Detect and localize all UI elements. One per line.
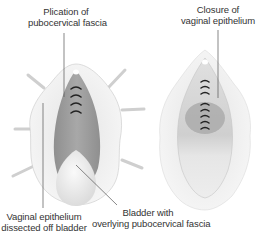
left-figure bbox=[13, 33, 144, 208]
urethral-apex bbox=[202, 60, 208, 65]
label-bladder: Bladder with overlying pubocervical fasc… bbox=[92, 207, 204, 229]
retractor bbox=[28, 75, 44, 88]
label-plication: Plication of pubocervical fascia bbox=[28, 6, 104, 28]
right-figure bbox=[160, 30, 251, 210]
illustration bbox=[0, 0, 258, 240]
retractor bbox=[108, 70, 125, 88]
urethral-apex bbox=[73, 70, 79, 75]
label-vaginal-epithelium: Vaginal epithelium dissected off bladder bbox=[0, 211, 88, 233]
retractor bbox=[122, 160, 142, 168]
retractor bbox=[122, 109, 144, 110]
label-closure: Closure of vaginal epithelium bbox=[180, 4, 256, 26]
bladder-bulge bbox=[185, 102, 225, 134]
